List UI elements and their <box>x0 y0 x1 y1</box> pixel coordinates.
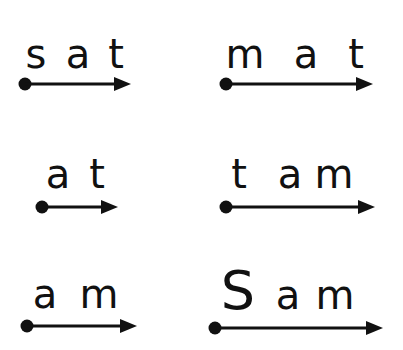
letter: a <box>278 151 303 197</box>
letter: m <box>315 151 354 197</box>
letter: t <box>231 151 247 197</box>
letter: a <box>46 151 71 197</box>
letter: m <box>80 271 119 317</box>
letter: s <box>26 31 47 77</box>
letter: m <box>226 31 265 77</box>
letter: a <box>33 271 58 317</box>
letter: a <box>276 272 301 318</box>
letter: t <box>108 31 124 77</box>
letter: a <box>66 31 91 77</box>
letter: t <box>89 151 105 197</box>
letter: a <box>294 31 319 77</box>
letter: m <box>316 272 355 318</box>
letter: S <box>221 259 255 322</box>
letter: t <box>348 31 364 77</box>
phonics-worksheet: satmatattamamSam <box>0 0 403 350</box>
